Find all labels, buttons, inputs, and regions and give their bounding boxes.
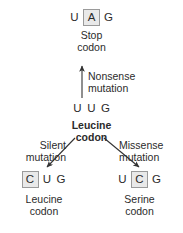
silent-mutation-line2: mutation xyxy=(6,152,66,164)
nonsense-mutation-line1: Nonsense xyxy=(88,71,135,83)
serine-bases: U C G xyxy=(96,172,183,187)
serine-caption-line2: codon xyxy=(96,206,183,218)
node-stop-codon: U A G Stop codon xyxy=(0,10,183,53)
base-3: G xyxy=(103,10,114,25)
leucine-silent-caption: Leucine codon xyxy=(0,194,88,217)
base-2-highlighted: C xyxy=(131,171,148,188)
leucine-silent-bases: C U G xyxy=(0,172,88,187)
missense-mutation-line1: Missense xyxy=(119,140,181,152)
base-1-highlighted: C xyxy=(22,171,39,188)
node-leucine-silent: C U G Leucine codon xyxy=(0,172,88,217)
stop-codon-caption-line1: Stop xyxy=(0,30,183,42)
leucine-original-bases: U U G xyxy=(0,101,183,116)
label-silent-mutation: Silent mutation xyxy=(6,140,66,163)
base-2: U xyxy=(86,101,97,116)
stop-codon-caption: Stop codon xyxy=(0,30,183,53)
stop-codon-caption-line2: codon xyxy=(0,42,183,54)
stop-codon-bases: U A G xyxy=(0,10,183,25)
label-missense-mutation: Missense mutation xyxy=(119,140,181,163)
node-serine: U C G Serine codon xyxy=(96,172,183,217)
silent-mutation-line1: Silent xyxy=(6,140,66,152)
missense-mutation-line2: mutation xyxy=(119,152,181,164)
base-3: G xyxy=(100,101,111,116)
leucine-original-caption-line1: Leucine xyxy=(0,120,183,132)
nonsense-mutation-line2: mutation xyxy=(88,83,135,95)
base-1: U xyxy=(69,10,80,25)
base-2: U xyxy=(42,172,53,187)
base-2-highlighted: A xyxy=(83,9,100,26)
base-1: U xyxy=(72,101,83,116)
base-3: G xyxy=(56,172,67,187)
serine-caption: Serine codon xyxy=(96,194,183,217)
base-1: U xyxy=(117,172,128,187)
codon-mutation-diagram: U A G Stop codon Nonsense mutation U U G… xyxy=(0,0,183,233)
leucine-silent-caption-line1: Leucine xyxy=(0,194,88,206)
node-leucine-original: U U G Leucine codon xyxy=(0,101,183,143)
label-nonsense-mutation: Nonsense mutation xyxy=(88,71,135,94)
serine-caption-line1: Serine xyxy=(96,194,183,206)
base-3: G xyxy=(151,172,162,187)
leucine-silent-caption-line2: codon xyxy=(0,206,88,218)
